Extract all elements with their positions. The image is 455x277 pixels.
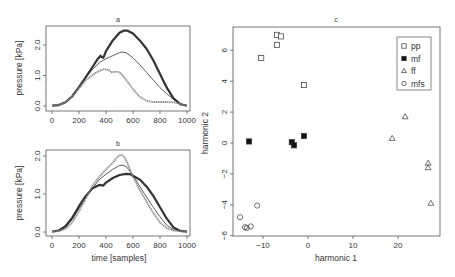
panel-a: a 02004006008001000 0.01.02.0 pressure [… [14,16,196,125]
x-tick-label: 400 [99,116,113,125]
y-tick-label: 0.0 [33,226,42,238]
x-tick-label: 600 [126,116,140,125]
panel-c-title: c [334,16,338,23]
panel-c: c −1001020 −6−4−20246 harmonic 2 harmoni… [200,16,440,263]
y-tick-label: 4 [220,78,229,83]
x-tick-label: 0 [50,241,55,250]
y-tick-label: −4 [220,200,229,210]
open-circle-marker [237,215,242,220]
panel-a-y-axis: 0.01.02.0 [33,39,46,112]
panel-c-y-axis: −6−4−20246 [220,48,233,241]
panel-a-title: a [116,16,120,23]
y-tick-label: 1.0 [33,188,42,200]
open-square-marker [301,82,306,87]
legend-label-pp: pp [411,41,421,51]
figure: a 02004006008001000 0.01.02.0 pressure [… [0,0,455,277]
x-tick-label: 400 [99,241,113,250]
x-tick-label: 0 [50,116,55,125]
x-tick-label: −10 [256,241,270,250]
panel-c-xlabel: harmonic 1 [315,253,357,263]
legend: ppmfffmfs [397,37,431,90]
y-tick-label: 2 [220,109,229,114]
panel-a-ylabel: pressure [kPa] [14,41,24,96]
x-tick-label: 200 [72,116,86,125]
panel-a-frame [46,26,190,111]
filled-square-marker [402,56,406,60]
x-tick-label: 800 [153,241,167,250]
legend-label-mfs: mfs [411,79,425,89]
series-line [52,31,187,106]
filled-square-marker [301,133,306,138]
panel-b-ylabel: pressure [kPa] [14,166,24,221]
open-square-marker [402,44,406,48]
x-tick-label: 1000 [178,241,196,250]
open-square-marker [259,55,264,60]
panel-a-x-axis: 02004006008001000 [50,111,197,125]
series-line [52,174,187,232]
y-tick-label: 6 [220,48,229,53]
panel-b-xlabel: time [samples] [92,253,147,263]
panel-b-title: b [116,140,120,147]
panel-b-x-axis: 02004006008001000 [50,236,197,250]
panel-c-ylabel: harmonic 2 [200,112,210,154]
open-square-marker [274,42,279,47]
panel-c-x-axis: −1001020 [256,236,403,250]
y-tick-label: 2.0 [33,39,42,51]
y-tick-label: 0 [220,140,229,145]
x-tick-label: 10 [349,241,358,250]
y-tick-label: 2.0 [33,150,42,162]
filled-square-marker [246,139,251,144]
x-tick-label: 20 [394,241,403,250]
x-tick-label: 200 [72,241,86,250]
y-tick-label: −2 [220,169,229,179]
x-tick-label: 1000 [178,116,196,125]
legend-label-ff: ff [411,66,416,76]
panel-b-lines [52,155,187,231]
legend-label-mf: mf [411,54,421,64]
filled-square-marker [291,143,296,148]
y-tick-label: −6 [220,231,229,241]
open-square-marker [278,34,283,39]
panel-a-lines [52,31,187,106]
open-triangle-marker [389,135,395,140]
x-tick-label: 800 [153,116,167,125]
open-triangle-marker [428,200,434,205]
x-tick-label: 0 [306,241,311,250]
open-triangle-marker [425,165,431,170]
open-triangle-marker [402,114,408,119]
x-tick-label: 600 [126,241,140,250]
panel-b: b 02004006008001000 0.01.02.0 pressure [… [14,140,196,263]
y-tick-label: 1.0 [33,69,42,81]
y-tick-label: 0.0 [33,100,42,112]
open-circle-marker [255,203,260,208]
panel-b-y-axis: 0.01.02.0 [33,150,46,238]
